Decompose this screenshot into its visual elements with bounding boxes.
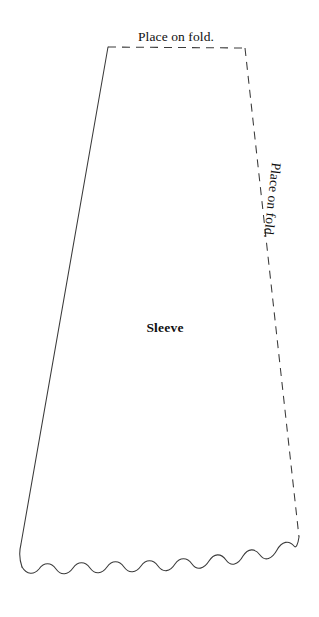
canvas-background (0, 0, 319, 617)
top-fold-label: Place on fold. (138, 29, 214, 44)
sleeve-pattern-drawing: Place on fold. Place on fold. Sleeve (0, 0, 319, 617)
pattern-sheet: Place on fold. Place on fold. Sleeve (0, 0, 319, 617)
piece-name-label: Sleeve (146, 320, 183, 335)
